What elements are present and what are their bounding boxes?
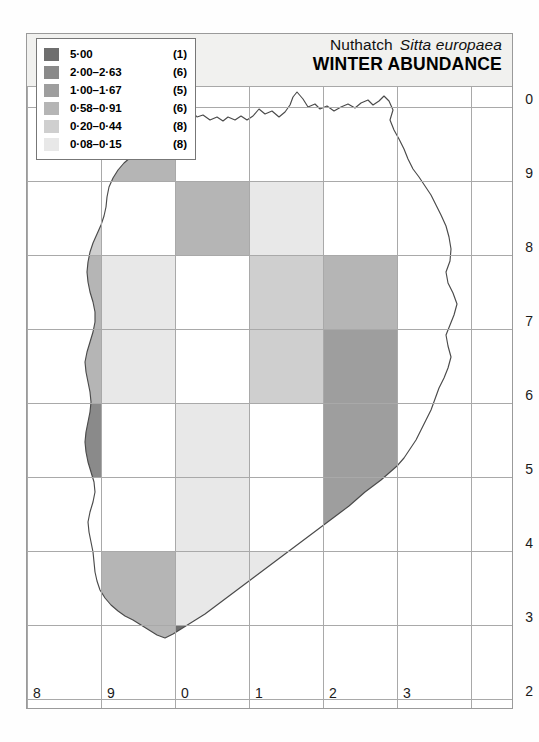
gridline-vertical — [397, 87, 398, 708]
y-axis-tick-label: 2 — [525, 684, 533, 698]
gridline-horizontal — [27, 329, 512, 330]
common-name: Nuthatch — [330, 36, 393, 53]
legend-color-swatch — [44, 66, 59, 79]
y-axis-tick-label: 9 — [525, 166, 533, 180]
legend-range-label: 0·20–0·44 — [70, 120, 173, 132]
legend-color-swatch — [44, 120, 59, 133]
legend-range-label: 5·00 — [70, 48, 173, 60]
gridline-vertical — [249, 87, 250, 708]
gridline-vertical — [471, 87, 472, 708]
abundance-legend: 5·00(1)2·00–2·63(6)1·00–1·67(5)0·58–0·91… — [36, 38, 196, 160]
legend-count-label: (8) — [173, 138, 187, 150]
legend-range-label: 0·58–0·91 — [70, 102, 173, 114]
legend-row: 0·20–0·44(8) — [44, 117, 187, 135]
x-axis-tick-label: 9 — [107, 686, 115, 700]
legend-row: 2·00–2·63(6) — [44, 63, 187, 81]
y-axis-tick-label: 6 — [525, 388, 533, 402]
x-axis-tick-label: 1 — [255, 686, 263, 700]
legend-color-swatch — [44, 138, 59, 151]
x-axis-tick-label: 3 — [403, 686, 411, 700]
map-title: WINTER ABUNDANCE — [313, 55, 502, 74]
x-axis-tick-label: 0 — [181, 686, 189, 700]
gridline-horizontal — [27, 181, 512, 182]
gridline-horizontal — [27, 625, 512, 626]
y-axis-tick-label: 3 — [525, 610, 533, 624]
legend-color-swatch — [44, 48, 59, 61]
map-plot-area — [27, 87, 512, 708]
x-axis-tick-label: 8 — [33, 686, 41, 700]
legend-count-label: (6) — [173, 66, 187, 78]
legend-row: 0·58–0·91(6) — [44, 99, 187, 117]
legend-row: 1·00–1·67(5) — [44, 81, 187, 99]
species-name-line: NuthatchSitta europaea — [313, 36, 502, 53]
legend-color-swatch — [44, 84, 59, 97]
x-axis-tick-label: 2 — [329, 686, 337, 700]
y-axis-tick-label: 8 — [525, 240, 533, 254]
legend-range-label: 2·00–2·63 — [70, 66, 173, 78]
gridline-vertical — [27, 87, 28, 708]
gridline-vertical — [101, 87, 102, 708]
y-axis-tick-label: 4 — [525, 536, 533, 550]
legend-range-label: 1·00–1·67 — [70, 84, 173, 96]
gridlines-layer — [27, 87, 512, 708]
gridline-horizontal — [27, 403, 512, 404]
legend-color-swatch — [44, 102, 59, 115]
legend-row: 5·00(1) — [44, 45, 187, 63]
y-axis-tick-label: 0 — [525, 92, 533, 106]
scientific-name: Sitta europaea — [400, 36, 502, 53]
gridline-horizontal — [27, 477, 512, 478]
gridline-horizontal — [27, 255, 512, 256]
legend-count-label: (5) — [173, 84, 187, 96]
legend-count-label: (1) — [173, 48, 187, 60]
legend-count-label: (8) — [173, 120, 187, 132]
legend-row: 0·08–0·15(8) — [44, 135, 187, 153]
map-page: NuthatchSitta europaea WINTER ABUNDANCE — [0, 0, 539, 742]
legend-count-label: (6) — [173, 102, 187, 114]
legend-range-label: 0·08–0·15 — [70, 138, 173, 150]
title-block: NuthatchSitta europaea WINTER ABUNDANCE — [313, 36, 502, 74]
gridline-vertical — [175, 87, 176, 708]
y-axis-tick-label: 7 — [525, 314, 533, 328]
gridline-horizontal — [27, 551, 512, 552]
gridline-horizontal — [27, 699, 512, 700]
gridline-vertical — [323, 87, 324, 708]
y-axis-tick-label: 5 — [525, 462, 533, 476]
